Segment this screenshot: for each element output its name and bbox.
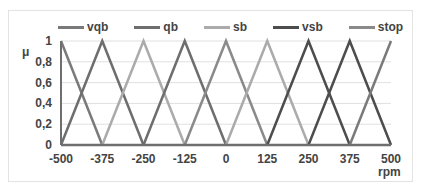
- x-tick-label: 250: [298, 152, 318, 166]
- x-tick-label: -500: [49, 152, 73, 166]
- x-tick-label: -375: [90, 152, 114, 166]
- x-tick-label: -250: [131, 152, 155, 166]
- y-tick-label: 1: [45, 34, 52, 48]
- series-stop: [185, 41, 268, 145]
- x-tick-label: 125: [257, 152, 277, 166]
- series-qb: [144, 41, 227, 145]
- y-tick-label: 0: [45, 138, 52, 152]
- plot-area: 00,20,40,60,81-500-375-250-1250125250375…: [0, 0, 424, 192]
- y-tick-label: 0,8: [35, 55, 52, 69]
- x-tick-label: -125: [173, 152, 197, 166]
- x-tick-label: 500: [381, 152, 401, 166]
- series-vsb: [267, 41, 350, 145]
- y-tick-label: 0,2: [35, 117, 52, 131]
- x-tick-label: 0: [223, 152, 230, 166]
- series-qb: [61, 41, 144, 145]
- series-sb: [226, 41, 309, 145]
- x-tick-label: 375: [340, 152, 360, 166]
- y-tick-label: 0,4: [35, 96, 52, 110]
- series-sb: [102, 41, 185, 145]
- y-tick-label: 0,6: [35, 76, 52, 90]
- series-vsb: [309, 41, 392, 145]
